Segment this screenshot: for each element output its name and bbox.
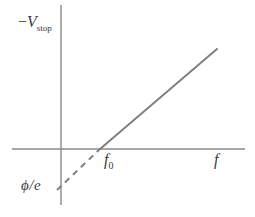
x-axis-label: f bbox=[214, 152, 218, 168]
photoelectric-dashed-extrapolation bbox=[57, 149, 101, 191]
threshold-frequency-label: f0 bbox=[104, 152, 113, 171]
photoelectric-effect-figure: −Vstop ϕ/e f0 f bbox=[0, 0, 255, 217]
photoelectric-solid-line bbox=[100, 49, 217, 149]
threshold-subscript: 0 bbox=[108, 160, 113, 171]
y-axis-minus-sign: − bbox=[18, 13, 27, 30]
y-intercept-label: ϕ/e bbox=[21, 178, 41, 193]
y-axis-label: −Vstop bbox=[18, 14, 52, 33]
y-axis-subscript: stop bbox=[37, 23, 52, 33]
electron-charge-symbol: e bbox=[34, 177, 41, 193]
y-axis-symbol: V bbox=[27, 13, 37, 30]
phi-symbol: ϕ bbox=[21, 177, 29, 193]
